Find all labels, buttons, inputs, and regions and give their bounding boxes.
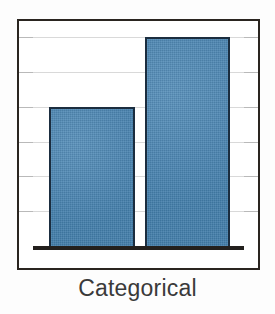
- figure-container: Categorical: [0, 0, 275, 314]
- x-axis-baseline: [33, 246, 244, 250]
- chart-caption: Categorical: [0, 274, 275, 302]
- plot-frame: [17, 19, 260, 270]
- plot-area: [19, 21, 258, 268]
- bar-2: [145, 37, 230, 248]
- bar-1: [49, 107, 135, 248]
